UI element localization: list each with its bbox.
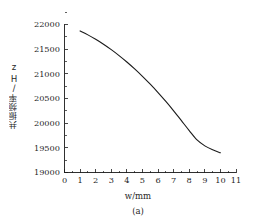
axis-lines: [65, 24, 237, 173]
x-axis-title: w/mm: [0, 191, 276, 201]
figure-caption: (a): [0, 206, 276, 216]
data-curve: [80, 31, 220, 153]
figure-panel: 共振频率/Hz 19000195002000020500210002150022…: [0, 0, 276, 224]
